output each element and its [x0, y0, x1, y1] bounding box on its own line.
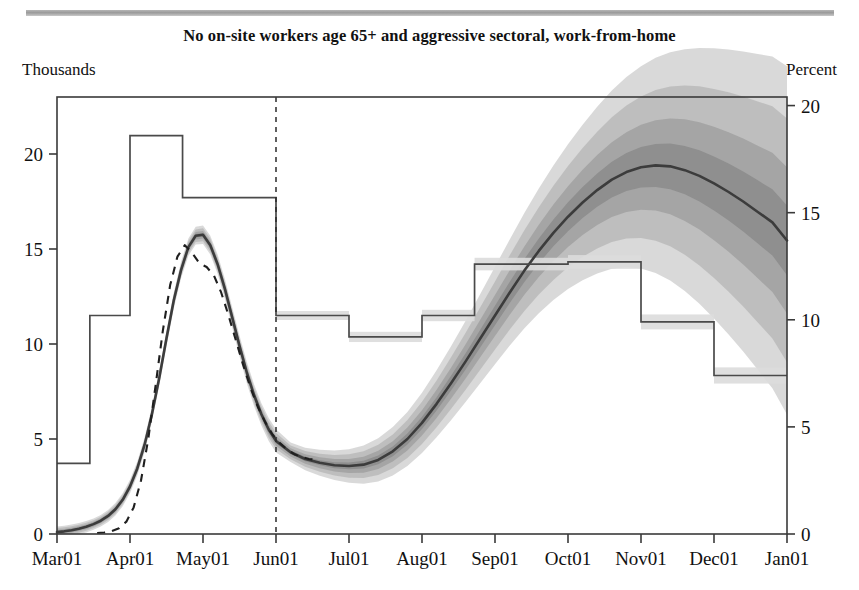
y-tick-label-right: 5 — [801, 417, 811, 438]
x-tick-label: Dec01 — [689, 548, 739, 569]
x-tick-label: Jul01 — [328, 548, 369, 569]
x-tick-label: Nov01 — [615, 548, 667, 569]
x-tick-label: Oct01 — [545, 548, 591, 569]
x-tick-label: Apr01 — [106, 548, 155, 569]
x-tick-label: Jan01 — [765, 548, 809, 569]
chart-plot: 0510152005101520Mar01Apr01May01Jun01Jul0… — [0, 0, 859, 590]
y-tick-label-right: 0 — [801, 524, 811, 545]
x-tick-label: Jun01 — [253, 548, 298, 569]
y-tick-label-left: 10 — [24, 334, 43, 355]
x-tick-label: Aug01 — [396, 548, 448, 569]
y-tick-label-left: 20 — [24, 144, 43, 165]
y-tick-label-left: 5 — [34, 429, 44, 450]
figure-container: No on-site workers age 65+ and aggressiv… — [0, 0, 859, 590]
x-tick-label: Sep01 — [471, 548, 519, 569]
y-tick-label-right: 15 — [801, 203, 820, 224]
y-tick-label-right: 20 — [801, 96, 820, 117]
y-tick-label-left: 0 — [34, 524, 44, 545]
y-tick-label-left: 15 — [24, 239, 43, 260]
x-tick-label: Mar01 — [32, 548, 83, 569]
x-tick-label: May01 — [176, 548, 230, 569]
y-tick-label-right: 10 — [801, 310, 820, 331]
